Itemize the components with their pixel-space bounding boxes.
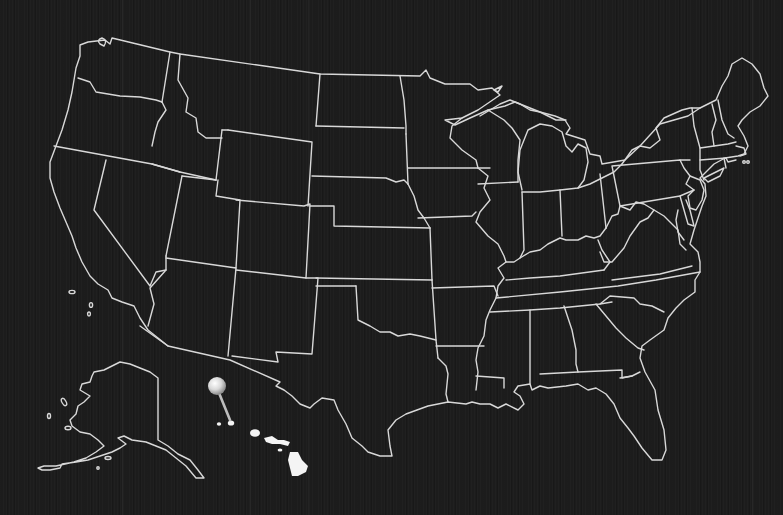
state-border-tx-la[interactable] [438, 358, 448, 402]
us-map: us-states-outline [0, 0, 783, 515]
state-border-or-id[interactable] [152, 102, 166, 146]
state-border-ut-co[interactable] [166, 180, 240, 268]
state-border-wa-or[interactable] [78, 78, 162, 102]
state-border-ks-ok[interactable] [316, 278, 432, 280]
state-border-oh-pa[interactable] [600, 174, 606, 228]
state-border-in-oh[interactable] [560, 190, 562, 236]
state-border-vt-nh[interactable] [712, 104, 716, 146]
states-svg [0, 0, 783, 515]
state-border-vt-ma[interactable] [700, 142, 736, 148]
state-border-id-mt[interactable] [178, 54, 222, 138]
state-border-mt-nd[interactable] [316, 74, 320, 126]
state-border-az-nm[interactable] [228, 268, 236, 356]
alaska-island [48, 414, 51, 419]
chesapeake-bay [676, 210, 684, 240]
state-border-sd-ne[interactable] [312, 176, 408, 184]
state-border-co[interactable] [236, 200, 310, 278]
channel-island [89, 303, 92, 308]
state-outline-wv[interactable] [600, 202, 654, 262]
state-border-ohio-river[interactable] [520, 228, 606, 258]
state-border-ks-mo[interactable] [430, 228, 432, 280]
state-border-il-in[interactable] [506, 192, 524, 262]
state-border-tn-south[interactable] [490, 302, 612, 312]
state-outline-de-md[interactable] [680, 196, 694, 226]
state-border-id-south[interactable] [152, 164, 216, 180]
state-outline-mi-upper[interactable] [480, 100, 566, 120]
state-border-nv-az[interactable] [148, 256, 166, 326]
state-outline-alaska[interactable] [38, 362, 204, 478]
state-border-al-ga[interactable] [564, 306, 578, 372]
alaska-island [105, 457, 111, 460]
channel-island [69, 290, 75, 293]
state-border-ca-az[interactable] [140, 326, 168, 346]
state-border-nd-sd[interactable] [316, 126, 404, 128]
state-border-nh-me[interactable] [718, 100, 734, 138]
state-border-nm-tx[interactable] [232, 278, 318, 362]
state-border-sd-mn[interactable] [406, 134, 408, 184]
alaska-island [65, 426, 71, 430]
state-border-ky-tn[interactable] [506, 270, 604, 280]
state-border-nv-ut[interactable] [166, 176, 182, 256]
state-border-nc-sc[interactable] [600, 296, 664, 312]
puget-sound-outline [98, 38, 105, 46]
state-border-ok-tx[interactable] [356, 286, 436, 340]
state-border-va-md[interactable] [654, 210, 686, 250]
state-border-wi-east[interactable] [488, 110, 520, 182]
state-outline-nj[interactable] [688, 176, 704, 210]
state-border-ny-east[interactable] [692, 108, 704, 180]
state-border-va-nc[interactable] [612, 266, 692, 280]
state-border-mn-wi[interactable] [450, 118, 478, 168]
state-border-nd-mn[interactable] [400, 76, 406, 134]
state-border-ne-ks[interactable] [310, 206, 430, 228]
state-border-ga-sc[interactable] [596, 304, 644, 350]
state-border-or-ca-nv[interactable] [54, 146, 180, 172]
state-border-ky-east[interactable] [598, 240, 610, 270]
state-border-mo-ar[interactable] [432, 286, 498, 296]
state-border-ia-mo[interactable] [418, 212, 476, 218]
state-border-wi-il[interactable] [478, 182, 518, 184]
state-border-la-ms[interactable] [476, 376, 504, 388]
state-border-mississippi[interactable] [476, 168, 506, 390]
map-pin-icon[interactable] [208, 377, 230, 420]
isle-royale-outline [494, 86, 502, 92]
state-border-ne-ia[interactable] [408, 184, 430, 228]
state-border-wy[interactable] [228, 130, 312, 206]
hawaii-islands[interactable] [217, 420, 308, 476]
state-outline-pa[interactable] [612, 160, 694, 206]
state-border-wa-id[interactable] [162, 52, 170, 102]
alaska-island [97, 467, 99, 469]
state-border-ca-nv[interactable] [94, 160, 166, 286]
channel-island [88, 312, 91, 316]
state-outline-mi-lower[interactable] [518, 124, 588, 192]
state-border-tn-north[interactable] [496, 272, 700, 298]
marthas-vineyard [743, 161, 746, 164]
alaska-island [60, 398, 67, 407]
nantucket [747, 161, 750, 164]
state-border-ct-ri[interactable] [724, 158, 726, 168]
